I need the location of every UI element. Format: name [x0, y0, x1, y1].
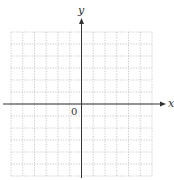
- x-axis-label: x: [168, 98, 174, 109]
- axes: [3, 18, 166, 178]
- origin-label: 0: [71, 107, 77, 117]
- y-axis-label: y: [78, 5, 84, 16]
- coordinate-plane: [0, 0, 174, 180]
- x-axis-arrow-icon: [160, 102, 166, 107]
- y-axis-arrow-icon: [79, 18, 84, 24]
